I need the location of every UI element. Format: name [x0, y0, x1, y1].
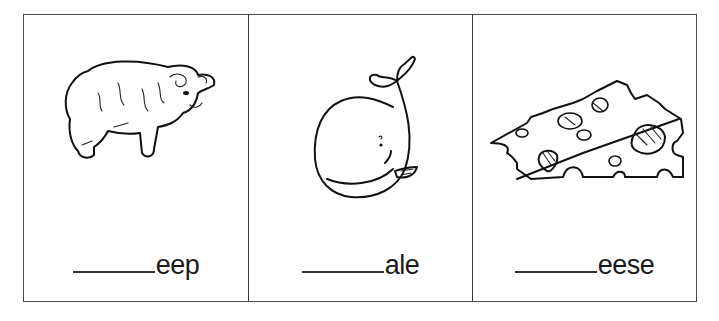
word-whale: ale [249, 252, 472, 279]
card-whale: ale [248, 15, 472, 301]
answer-blank[interactable] [73, 271, 155, 273]
word-suffix: eep [156, 252, 200, 279]
word-suffix: eese [598, 252, 655, 279]
worksheet: eep ale [23, 14, 697, 302]
answer-blank[interactable] [515, 271, 597, 273]
word-sheep: eep [24, 252, 248, 279]
answer-blank[interactable] [302, 271, 384, 273]
cheese-icon [487, 73, 687, 197]
whale-icon [297, 29, 437, 203]
word-suffix: ale [385, 252, 420, 279]
word-cheese: eese [473, 252, 696, 279]
sheep-icon [58, 53, 218, 187]
card-cheese: eese [472, 15, 696, 301]
card-sheep: eep [24, 15, 248, 301]
